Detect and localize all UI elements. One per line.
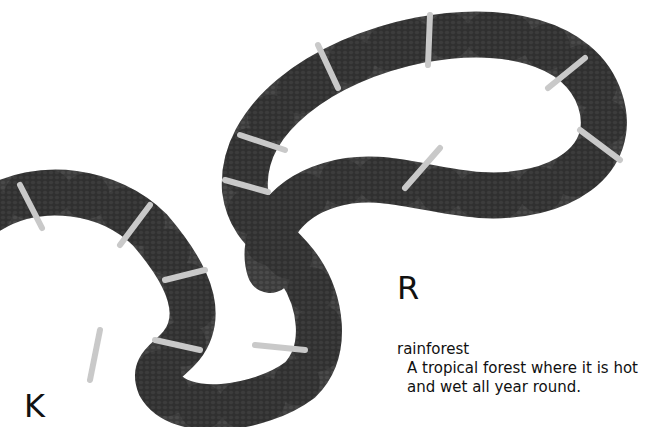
glossary-term: rainforest	[397, 340, 469, 358]
definition-line-2: and wet all year round.	[407, 378, 647, 397]
section-letter-r: R	[397, 272, 419, 304]
section-letter-k: K	[24, 390, 45, 422]
definition-line-1: A tropical forest where it is hot	[407, 359, 647, 378]
glossary-definition: A tropical forest where it is hot and we…	[407, 359, 647, 397]
